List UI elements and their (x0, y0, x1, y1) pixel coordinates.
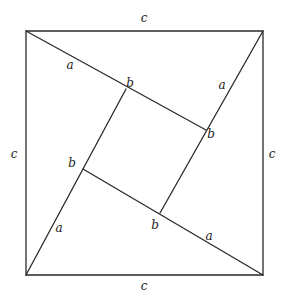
pythagorean-proof-diagram: c c c c a b a b b a b a (0, 0, 289, 302)
label-side-top-c: c (141, 11, 148, 25)
outer-square (26, 31, 263, 275)
segment-topleft-to-inner-right (26, 31, 206, 130)
label-leg-b-top: b (126, 76, 134, 90)
label-leg-b-left: b (68, 156, 76, 170)
label-leg-a-top: a (66, 58, 73, 72)
label-leg-b-bottom: b (151, 218, 159, 232)
label-leg-b-right: b (207, 127, 215, 141)
label-leg-a-bottom: a (205, 229, 212, 243)
segment-bottomleft-to-inner-top (26, 89, 126, 275)
label-side-bottom-c: c (141, 279, 148, 293)
label-side-left-c: c (11, 147, 18, 161)
label-leg-a-right: a (218, 78, 225, 92)
segment-topright-to-inner-bottom (160, 31, 263, 213)
label-leg-a-left: a (55, 221, 62, 235)
label-side-right-c: c (269, 147, 276, 161)
segment-bottomright-to-inner-left (83, 169, 263, 275)
